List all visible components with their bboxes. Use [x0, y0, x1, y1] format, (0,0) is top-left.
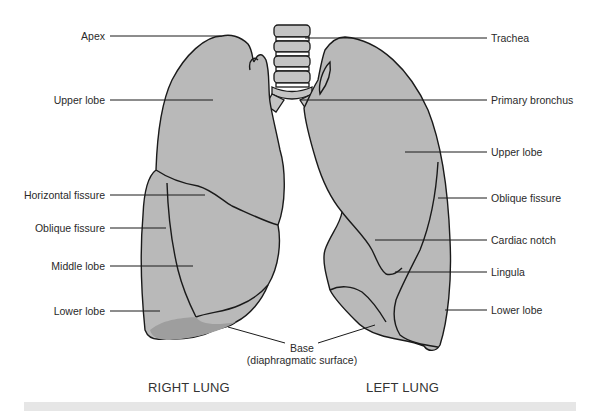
label-primary-bronchus: Primary bronchus: [491, 94, 573, 106]
label-right-lower-lobe: Lower lobe: [0, 305, 105, 317]
label-right-oblique-fissure: Oblique fissure: [0, 222, 105, 234]
right-lung-shape: [141, 35, 284, 340]
caption-right-lung: RIGHT LUNG: [148, 380, 230, 395]
label-left-upper-lobe: Upper lobe: [491, 146, 542, 158]
caption-left-lung: LEFT LUNG: [366, 380, 439, 395]
label-lingula: Lingula: [491, 266, 525, 278]
label-apex: Apex: [0, 30, 105, 42]
leader-lines-base: [228, 325, 375, 343]
label-base: Base: [222, 342, 382, 354]
label-right-upper-lobe: Upper lobe: [0, 94, 105, 106]
left-lung-shape: [304, 37, 451, 350]
bottom-divider-bar: [24, 402, 576, 411]
label-middle-lobe: Middle lobe: [0, 260, 105, 272]
label-left-oblique-fissure: Oblique fissure: [491, 192, 561, 204]
label-horizontal-fissure: Horizontal fissure: [0, 189, 105, 201]
label-base-subtitle: (diaphragmatic surface): [222, 354, 382, 366]
label-left-lower-lobe: Lower lobe: [491, 304, 542, 316]
label-cardiac-notch: Cardiac notch: [491, 234, 556, 246]
label-trachea: Trachea: [491, 32, 529, 44]
